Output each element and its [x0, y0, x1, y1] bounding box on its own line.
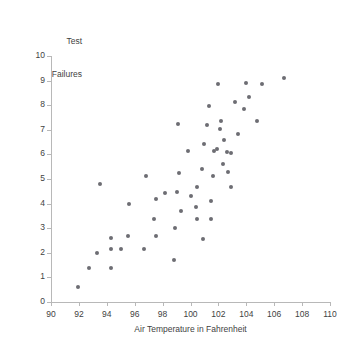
data-point: [207, 104, 211, 108]
x-tick-label: 106: [267, 309, 281, 320]
scatter-chart: Test Failures 012345678910 9092949698100…: [0, 0, 352, 355]
x-tick-label: 90: [46, 309, 55, 320]
data-point: [109, 247, 113, 251]
data-point: [163, 191, 167, 195]
data-point: [236, 132, 240, 136]
y-tick-mark: [47, 130, 51, 131]
x-tick-mark: [79, 302, 80, 306]
x-tick-mark: [107, 302, 108, 306]
x-tick-mark: [51, 302, 52, 306]
data-point: [221, 162, 225, 166]
data-point: [260, 82, 264, 86]
x-tick-mark: [135, 302, 136, 306]
data-point: [126, 234, 130, 238]
data-point: [194, 205, 198, 209]
x-tick-mark: [246, 302, 247, 306]
data-point: [205, 123, 209, 127]
data-point: [229, 185, 233, 189]
y-tick-label: 4: [40, 198, 45, 209]
y-tick-mark: [47, 253, 51, 254]
x-tick-label: 110: [323, 309, 337, 320]
x-tick-label: 98: [158, 309, 167, 320]
data-point: [242, 107, 246, 111]
data-point: [189, 194, 193, 198]
x-tick-label: 96: [130, 309, 139, 320]
data-point: [209, 199, 213, 203]
y-tick-mark: [47, 228, 51, 229]
y-tick-label: 9: [40, 75, 45, 86]
data-point: [255, 119, 259, 123]
data-point: [219, 119, 223, 123]
data-point: [229, 151, 233, 155]
y-tick-mark: [47, 179, 51, 180]
data-point: [98, 182, 102, 186]
data-point: [109, 266, 113, 270]
y-tick-label: 7: [40, 124, 45, 135]
x-tick-mark: [330, 302, 331, 306]
x-tick-mark: [274, 302, 275, 306]
y-tick-label: 2: [40, 247, 45, 258]
y-tick-label: 6: [40, 148, 45, 159]
data-point: [119, 247, 123, 251]
data-point: [202, 142, 206, 146]
data-point: [211, 174, 215, 178]
data-point: [109, 236, 113, 240]
plot-area: 012345678910 909294969810010210410610811…: [51, 56, 330, 302]
y-tick-label: 3: [40, 222, 45, 233]
data-point: [176, 122, 180, 126]
y-tick-mark: [47, 81, 51, 82]
data-point: [154, 197, 158, 201]
data-point: [233, 100, 237, 104]
data-point: [144, 174, 148, 178]
x-tick-label: 94: [102, 309, 111, 320]
chart-title-line-1: Test: [22, 36, 82, 47]
data-point: [95, 251, 99, 255]
x-tick-mark: [218, 302, 219, 306]
y-tick-label: 8: [40, 99, 45, 110]
data-point: [247, 95, 251, 99]
x-tick-label: 102: [211, 309, 225, 320]
x-tick-label: 92: [74, 309, 83, 320]
data-point: [209, 217, 213, 221]
data-point: [76, 285, 80, 289]
x-tick-mark: [163, 302, 164, 306]
data-point: [87, 266, 91, 270]
x-tick-label: 108: [295, 309, 309, 320]
data-point: [222, 138, 226, 142]
x-tick-mark: [191, 302, 192, 306]
data-point: [177, 171, 181, 175]
y-tick-label: 10: [36, 50, 45, 61]
x-tick-label: 104: [239, 309, 253, 320]
data-point: [226, 170, 230, 174]
data-point: [142, 247, 146, 251]
data-point: [154, 234, 158, 238]
data-point: [216, 82, 220, 86]
data-point: [175, 190, 179, 194]
x-tick-mark: [302, 302, 303, 306]
y-tick-mark: [47, 105, 51, 106]
x-axis-label: Air Temperature in Fahrenheit: [51, 324, 330, 335]
data-point: [195, 217, 199, 221]
data-point: [173, 226, 177, 230]
data-point: [152, 217, 156, 221]
y-tick-label: 1: [40, 271, 45, 282]
y-tick-label: 5: [40, 173, 45, 184]
data-point: [218, 127, 222, 131]
data-point: [215, 147, 219, 151]
y-tick-label: 0: [40, 296, 45, 307]
data-point: [200, 167, 204, 171]
data-point: [127, 202, 131, 206]
y-tick-mark: [47, 154, 51, 155]
data-point: [195, 185, 199, 189]
data-point: [172, 258, 176, 262]
y-tick-mark: [47, 56, 51, 57]
data-point: [186, 149, 190, 153]
y-tick-mark: [47, 277, 51, 278]
data-point: [244, 81, 248, 85]
data-point: [179, 209, 183, 213]
data-point: [282, 76, 286, 80]
data-point: [201, 237, 205, 241]
x-tick-label: 100: [183, 309, 197, 320]
y-tick-mark: [47, 204, 51, 205]
